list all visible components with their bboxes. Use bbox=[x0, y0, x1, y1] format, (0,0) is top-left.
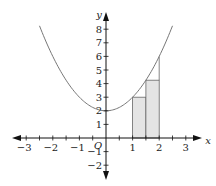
y-tick-label: 1 bbox=[96, 119, 102, 130]
x-tick-label: −3 bbox=[17, 142, 32, 153]
y-tick-label: 6 bbox=[96, 51, 102, 62]
x-axis-label: x bbox=[205, 135, 211, 146]
axis-labels: −3−2−1123−2−112345678Oxy bbox=[17, 9, 211, 171]
x-axis-right-arrow-icon bbox=[193, 135, 202, 141]
origin-label: O bbox=[94, 140, 102, 151]
y-axis-down-arrow-icon bbox=[103, 171, 109, 180]
riemann-rectangles bbox=[133, 56, 160, 138]
y-tick-label: −2 bbox=[87, 160, 102, 171]
y-tick-label: 8 bbox=[96, 24, 102, 35]
y-tick-label: 3 bbox=[96, 92, 102, 103]
x-axis-left-arrow-icon bbox=[12, 135, 21, 141]
riemann-rectangle-2 bbox=[146, 80, 159, 138]
y-axis-label: y bbox=[95, 9, 102, 20]
x-tick-label: −1 bbox=[70, 142, 85, 153]
y-tick-label: 7 bbox=[96, 37, 102, 48]
riemann-sum-plot: −3−2−1123−2−112345678Oxy bbox=[0, 0, 216, 186]
y-tick-label: 4 bbox=[96, 78, 102, 89]
y-tick-label: 2 bbox=[96, 105, 102, 116]
x-tick-label: 2 bbox=[156, 142, 162, 153]
x-tick-label: 1 bbox=[129, 142, 135, 153]
axes bbox=[12, 12, 202, 180]
y-tick-label: 5 bbox=[96, 65, 102, 76]
y-axis-up-arrow-icon bbox=[103, 12, 109, 21]
x-tick-label: 3 bbox=[183, 142, 189, 153]
x-tick-label: −2 bbox=[43, 142, 58, 153]
riemann-rectangle-1 bbox=[133, 97, 146, 138]
